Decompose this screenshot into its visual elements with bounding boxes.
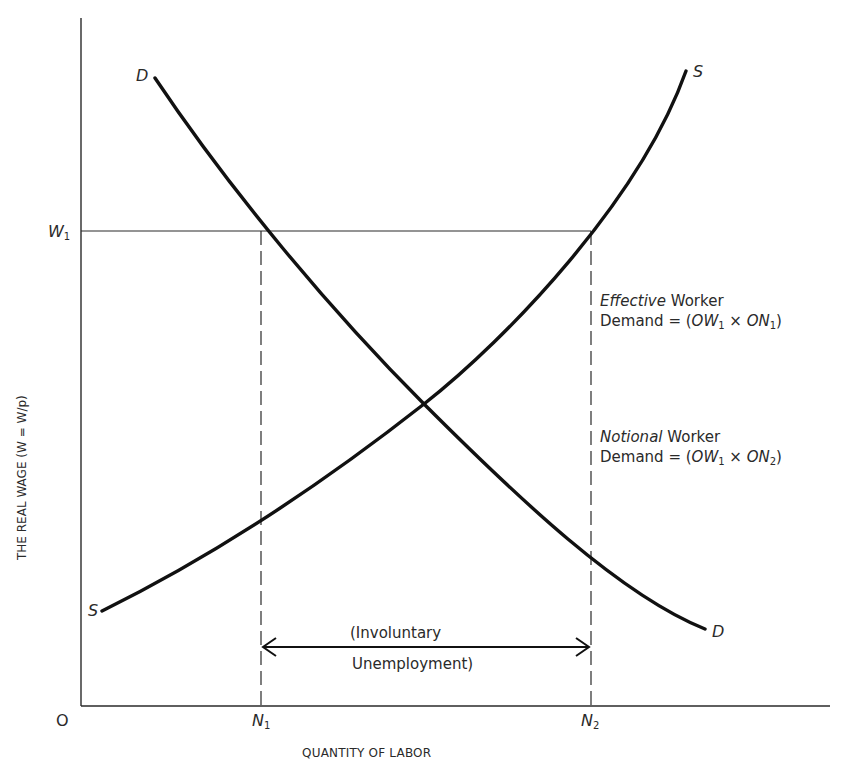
unemployment-label-line2: Unemployment): [352, 654, 473, 674]
demand-curve: [155, 78, 705, 629]
w1-tick-label: W1: [48, 224, 70, 242]
supply-curve: [102, 71, 686, 611]
supply-label-bottom: S: [88, 603, 98, 619]
notional-demand-note: Notional Worker Demand = (OW1 × ON2): [600, 427, 782, 472]
demand-label-bottom: D: [712, 624, 724, 640]
effective-demand-note: Effective Worker Demand = (OW1 × ON1): [600, 291, 782, 336]
origin-label: O: [56, 713, 69, 729]
unemployment-label-line1: (Involuntary: [350, 623, 441, 643]
n2-tick-label: N2: [581, 713, 599, 731]
x-axis-title: QUANTITY OF LABOR: [302, 747, 431, 759]
n1-tick-label: N1: [252, 713, 270, 731]
supply-label-top: S: [693, 64, 703, 80]
demand-label-top: D: [136, 68, 148, 84]
y-axis-title: THE REAL WAGE (W = W/p): [15, 395, 29, 560]
